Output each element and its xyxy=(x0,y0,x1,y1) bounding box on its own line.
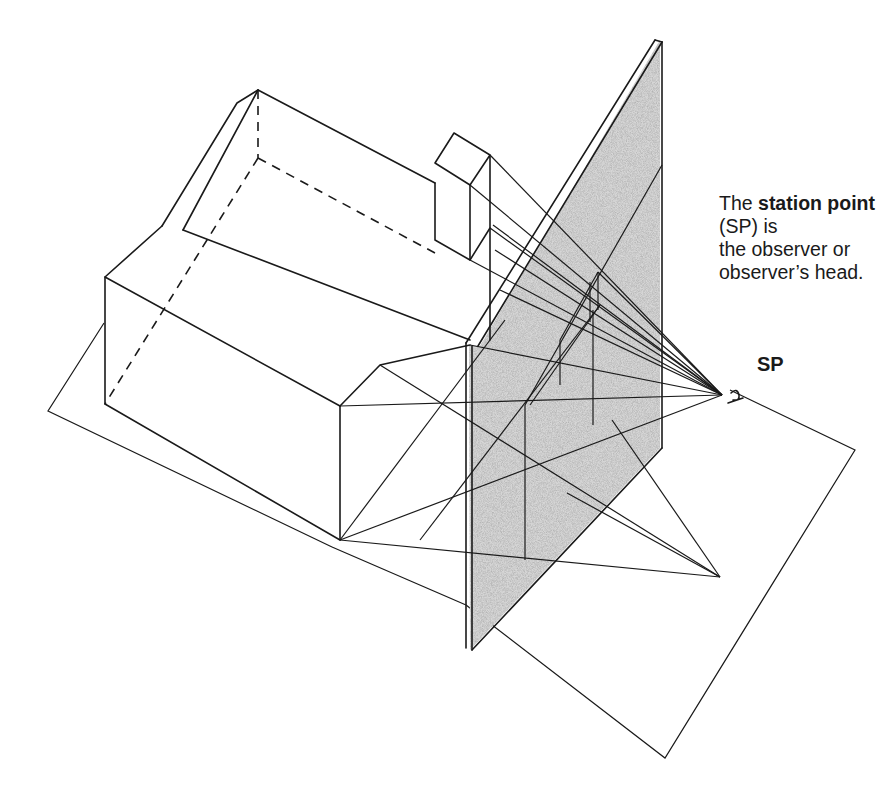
caption-station-point: The station point (SP) is the observer o… xyxy=(719,192,882,284)
picture-plane xyxy=(466,40,662,650)
house xyxy=(105,90,470,540)
caption-prefix: The xyxy=(719,192,758,214)
caption-term: station point xyxy=(758,192,875,214)
station-point-label: SP xyxy=(757,353,784,376)
chimney xyxy=(435,133,490,340)
ground-plane xyxy=(48,323,855,758)
caption-body: the observer or observer’s head. xyxy=(719,238,864,283)
perspective-diagram xyxy=(0,0,882,788)
caption-suffix: (SP) is xyxy=(719,215,778,237)
